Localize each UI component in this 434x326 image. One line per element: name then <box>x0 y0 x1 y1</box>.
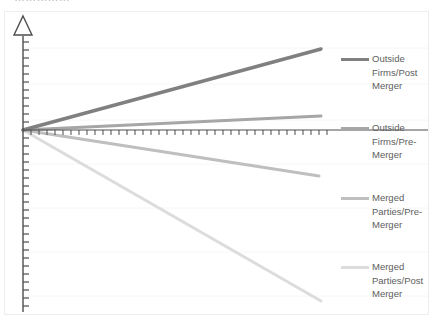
legend-swatch-icon <box>341 266 369 269</box>
x-axis-ticks <box>31 130 327 135</box>
chart-figure: …………… <box>0 0 434 326</box>
clipped-header-text: …………… <box>14 0 70 3</box>
legend-swatch-icon <box>341 127 369 130</box>
legend-label: Outside Firms/Pre- Merger <box>372 121 434 162</box>
legend-label: Merged Parties/Post Merger <box>372 260 434 301</box>
series-line-merged-parties-pre-merger <box>23 130 319 176</box>
series-line-merged-parties-post-merger <box>23 130 321 301</box>
delta-axis-symbol <box>14 16 32 35</box>
legend-swatch-icon <box>341 197 369 200</box>
chart-plot-frame: Outside Firms/Post Merger Outside Firms/… <box>4 11 429 315</box>
legend-label: Merged Parties/Pre- Merger <box>372 191 434 232</box>
y-axis-ticks <box>23 42 29 306</box>
clipped-header-strip: …………… <box>0 0 434 11</box>
background-gridlines <box>19 48 428 296</box>
legend-label: Outside Firms/Post Merger <box>372 52 434 93</box>
legend-swatch-icon <box>341 58 369 61</box>
